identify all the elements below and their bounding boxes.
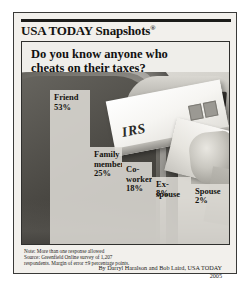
byline-credit: By Darryl Haralson and Bob Laird, USA TO… [52,264,222,279]
byline-year: 2005 [52,272,222,280]
snapshot-frame: USA TODAY Snapshots® Do you know anyone … [13,12,237,274]
bar-label-family-member: Family member [94,150,124,169]
bar-value-co-worker: 18% [126,184,143,194]
registered-mark-icon: ® [150,24,155,32]
bar-ex-spouse: Ex-spouse 8% [152,177,191,245]
bar-co-worker: Co- worker 18% [122,162,152,245]
chart-panel: Do you know anyone who cheats on their t… [21,41,230,245]
bar-spouse: Spouse 2% [191,184,229,245]
byline-authors: By Darryl Haralson and Bob Laird, USA TO… [52,264,222,272]
stamp-icon [188,103,204,120]
bar-label-co-worker: Co- worker [126,165,152,184]
question-line-1: Do you know anyone who [31,48,221,62]
irs-envelope-label: IRS [121,121,148,141]
bar-friend: Friend 53% [50,90,90,245]
bar-value-friend: 53% [54,103,71,113]
bar-value-spouse: 2% [195,196,208,206]
mailbox-photo: IRS Friend 53% Family member 25% Co- wor… [22,72,229,245]
masthead-rule [21,19,231,22]
page-title: Do you know anyone who cheats on their t… [31,48,221,75]
bar-value-ex-spouse: 8% [156,189,169,199]
masthead-brand: USA TODAY Snapshots® [21,23,231,39]
bar-value-family-member: 25% [94,169,111,179]
stamp-icon [203,101,219,118]
masthead-brand-text: USA TODAY Snapshots [21,23,150,38]
bar-family-member: Family member 25% [90,147,122,245]
